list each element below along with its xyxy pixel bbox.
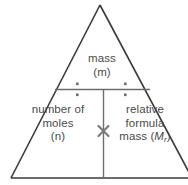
triangle-right-leg bbox=[100, 5, 188, 178]
cell-label-mass: mass (m) bbox=[58, 52, 146, 79]
divide-left-dot-upper bbox=[76, 83, 79, 86]
cell-label-mass-line2: (m) bbox=[58, 66, 146, 80]
divide-right-dot-lower bbox=[124, 94, 127, 97]
divide-left-dot-lower bbox=[76, 94, 79, 97]
cell-label-rfm-suffix: ) bbox=[167, 130, 171, 142]
cell-label-moles: number of moles (n) bbox=[16, 103, 100, 144]
cell-label-rfm-line2: formula bbox=[104, 117, 186, 131]
cell-label-mass-line1: mass bbox=[58, 52, 146, 66]
cell-label-rfm-line3: mass (Mr) bbox=[104, 130, 186, 144]
divide-right-dot-upper bbox=[124, 83, 127, 86]
cell-label-moles-line1: number of bbox=[16, 103, 100, 117]
cell-label-moles-line2: moles bbox=[16, 117, 100, 131]
cell-label-rfm-line1: relative bbox=[104, 103, 186, 117]
cell-label-rfm-symbol: M bbox=[154, 130, 164, 142]
triangle-outline-svg bbox=[0, 0, 188, 185]
cell-label-moles-line3: (n) bbox=[16, 130, 100, 144]
cell-label-rfm-prefix: mass ( bbox=[119, 130, 154, 142]
formula-triangle-diagram: mass (m) number of moles (n) relative fo… bbox=[0, 0, 188, 185]
triangle-left-leg bbox=[11, 5, 100, 178]
cell-label-relative-formula-mass: relative formula mass (Mr) bbox=[104, 103, 186, 145]
